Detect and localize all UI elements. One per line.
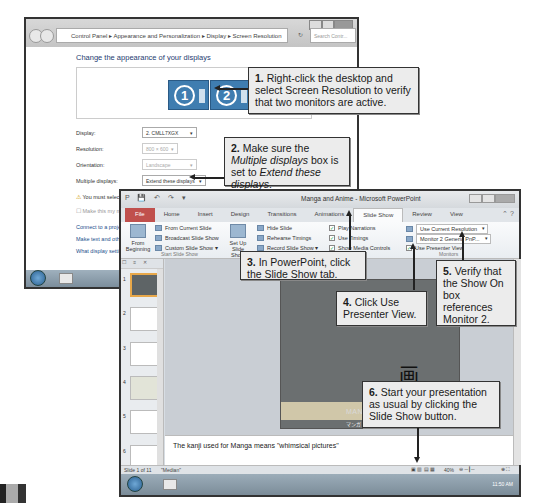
resolution-icon [406,226,413,232]
arrow-down-icon [414,457,420,463]
thumbnail-scrollbar[interactable] [157,269,163,488]
callout-4-leader [413,248,415,290]
tab-slide-show[interactable]: Slide Show [353,208,403,222]
qat-icons[interactable]: P 💾 ↶ ↷ ▾ [125,194,189,202]
show-on-combo[interactable]: Monitor 2 Generic PnP... [406,234,491,244]
window-title: Manga and Anime - Microsoft PowerPoint [301,195,421,202]
projector-icon [130,224,146,238]
thumbnail-number: 5 [123,413,126,419]
thumbnail-number: 1 [123,276,126,282]
resolution-select[interactable]: 800 × 600▾ [142,143,178,154]
button-label: Rehearse Timings [267,235,311,241]
rehearse-timings-button[interactable]: Rehearse Timings [257,235,311,241]
callout-2: 2. Make sure the Multiple displays box i… [224,137,350,186]
stopwatch-icon [257,235,264,241]
thumbnail-number: 4 [123,379,126,385]
search-input[interactable]: Search Contr... [310,28,356,43]
callout-text: Click Use Presenter View. [343,296,416,320]
taskbar-item[interactable] [59,273,73,284]
button-label: Broadcast Slide Show [165,235,219,241]
resolution-label: Resolution: [76,146,104,152]
monitor-number: 1 [174,85,195,106]
hide-slide-icon [257,225,264,231]
show-on-value[interactable]: Monitor 2 Generic PnP... [416,234,491,244]
monitor-icon [199,89,205,103]
slide-thumbnail-1[interactable] [130,273,160,297]
from-current-slide-button[interactable]: From Current Slide [155,225,211,231]
tab-transitions[interactable]: Transitions [258,208,305,222]
button-label: Hide Slide [267,225,292,231]
minimize-button[interactable] [469,194,482,203]
multiple-displays-label: Multiple displays: [76,178,118,184]
slide-counter: Slide 1 of 11 [124,467,151,473]
arrow-up-icon [346,210,352,216]
notes-pane[interactable]: The kanji used for Manga means "whimsica… [165,435,513,465]
monitor-icon [406,236,413,242]
warning-icon: ⚠ [76,194,81,200]
slide-thumbnail-2[interactable] [130,307,160,331]
pane-tabs[interactable]: ☐ ≡ ✕ [121,259,163,269]
breadcrumb-screen-resolution[interactable]: Screen Resolution [232,33,281,39]
chevron-down-icon: ▾ [190,130,193,136]
monitor-1[interactable]: 1 [168,80,209,110]
breadcrumb-display[interactable]: Display [206,33,226,39]
callout-text: . [269,178,272,190]
slide-thumbnail-5[interactable] [130,410,160,434]
checkbox-label: Play Narrations [338,225,376,231]
maximize-button[interactable] [482,194,495,203]
chevron-down-icon: ▾ [190,162,193,168]
refresh-icon[interactable]: ↻ [292,28,308,43]
slide-thumbnail-pane: ☐ ≡ ✕ 1 2 3 4 5 6 [121,259,164,488]
tab-file[interactable]: File [125,208,155,222]
tab-review[interactable]: Review [403,208,441,222]
taskbar-powerpoint[interactable] [163,479,177,490]
search-placeholder: Search Contr... [314,33,347,39]
checkbox-icon: ☐ [76,208,81,214]
breadcrumb-control-panel[interactable]: Control Panel [71,33,107,39]
close-button[interactable] [495,194,515,203]
callout-number: 6. [369,386,378,398]
help-icon[interactable]: ⌃ ? [502,210,514,218]
slide-thumbnail-3[interactable] [130,342,160,366]
callout-number: 4. [343,296,352,308]
resolution-value[interactable]: Use Current Resolution [416,224,488,234]
tab-insert[interactable]: Insert [189,208,222,222]
callout-1-leader [220,88,248,90]
display-select[interactable]: 2. CMLL7XGX▾ [142,127,197,138]
arrow-up-icon [410,243,416,249]
resolution-combo[interactable]: Use Current Resolution [406,224,488,234]
forward-button[interactable] [40,29,54,43]
address-bar[interactable]: Control Panel ▸ Appearance and Personali… [56,28,288,43]
play-narrations-checkbox[interactable]: ✓Play Narrations [329,225,376,231]
orientation-select[interactable]: Landscape▾ [142,159,197,170]
tab-design[interactable]: Design [222,208,259,222]
tab-home[interactable]: Home [155,208,189,222]
breadcrumb-appearance[interactable]: Appearance and Personalization [113,33,200,39]
from-beginning-button[interactable]: From Beginning [125,224,151,252]
page-heading: Change the appearance of your displays [76,53,211,62]
tab-view[interactable]: View [441,208,472,222]
zoom-slider[interactable]: ⊖ ─┃─ [459,466,474,472]
display-value: 2. CMLL7XGX [146,130,178,136]
hide-slide-button[interactable]: Hide Slide [257,225,292,231]
zoom-level: 40% [444,467,454,473]
start-button[interactable] [127,476,143,492]
zoom-in-icon[interactable]: ⊕ ⛶ [501,466,510,473]
view-buttons[interactable]: ▣ ▥ ▤ ▦ [411,466,435,472]
slide-icon [155,225,162,231]
callout-number: 1. [255,72,264,84]
group-label-start: Start Slide Show [161,251,198,257]
theme-name: "Median" [161,467,181,473]
callout-1: 1. Right-click the desktop and select Sc… [248,67,419,114]
callout-6-leader [417,428,419,458]
chevron-down-icon: ▾ [171,146,174,152]
setup-icon [230,224,246,238]
chevron-down-icon: ▾ [199,178,202,184]
title-bar: Control Panel ▸ Appearance and Personali… [26,19,357,47]
multiple-displays-value: Extend these displays [146,178,195,184]
notes-text: The kanji used for Manga means "whimsica… [173,442,339,449]
slide-thumbnail-4[interactable] [130,376,160,400]
checkbox-label: Use Timings [338,235,368,241]
start-button[interactable] [30,270,46,286]
broadcast-button[interactable]: Broadcast Slide Show [155,235,219,241]
